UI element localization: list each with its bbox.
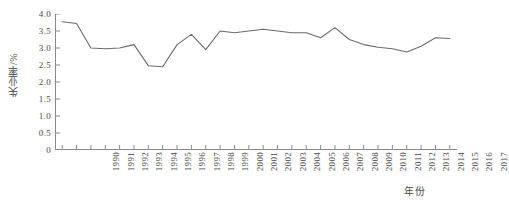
x-axis-tick-label: 2002 [284, 152, 293, 171]
x-axis-tick-label: 2016 [485, 152, 494, 171]
y-axis-tick-label: 4.0 [39, 10, 51, 19]
x-axis-tick-label: 1999 [241, 152, 250, 171]
plot-svg [55, 14, 457, 150]
x-axis-tick-label: 2001 [270, 152, 279, 171]
y-axis-tick-label: 0 [46, 146, 51, 155]
y-axis-tick-label: 3.0 [39, 44, 51, 53]
x-axis-tick-label: 2012 [428, 152, 437, 171]
axis-group [56, 14, 458, 150]
x-axis-tick-label: 1994 [170, 152, 179, 171]
x-axis-tick-label: 1996 [198, 152, 207, 171]
x-axis-tick-label: 1990 [112, 152, 121, 171]
y-axis-tick-label: 3.5 [39, 27, 51, 36]
x-axis-tick-label: 2017 [500, 152, 509, 171]
x-axis-tick-label: 2009 [385, 152, 394, 171]
y-axis-tick-label: 2.0 [39, 78, 51, 87]
x-axis-tick-label: 1991 [127, 152, 136, 171]
x-axis-tick-label: 2015 [471, 152, 480, 171]
x-axis-tick-label: 1993 [155, 152, 164, 171]
x-axis-tick-label: 1997 [213, 152, 222, 171]
x-axis-tick-label: 1998 [227, 152, 236, 171]
y-axis-tick-label: 2.5 [39, 61, 51, 70]
x-axis-tick-label: 2004 [313, 152, 322, 171]
x-axis-tick-label: 2005 [328, 152, 337, 171]
y-axis-tick-label: 1.5 [39, 95, 51, 104]
x-axis-tick-label: 2013 [442, 152, 451, 171]
x-axis-tick-label: 2010 [399, 152, 408, 171]
unemployment-rate-line [62, 22, 450, 67]
x-axis-tick-label: 2003 [299, 152, 308, 171]
y-axis-tick-label: 0.5 [39, 129, 51, 138]
x-axis-tick-label: 2006 [342, 152, 351, 171]
y-axis-ticks [56, 14, 61, 150]
x-axis-tick-label: 1992 [141, 152, 150, 171]
x-axis-tick-label: 1995 [184, 152, 193, 171]
x-axis-tick-label: 2014 [457, 152, 466, 171]
y-axis-tick-label: 1.0 [39, 112, 51, 121]
plot-area [55, 14, 457, 150]
y-axis-title-label: 失业率/% [6, 53, 21, 97]
x-axis-tick-label: 2011 [414, 152, 423, 171]
x-axis-tick-label: 2007 [356, 152, 365, 171]
y-axis-tick-labels: 4.03.53.02.52.01.51.00.50 [24, 0, 55, 156]
x-axis-title: 年份 [404, 186, 425, 197]
y-axis-title: 失业率/% [0, 0, 26, 150]
x-axis-ticks [62, 145, 450, 150]
x-axis-tick-label: 2000 [256, 152, 265, 171]
x-axis-tick-label: 2008 [371, 152, 380, 171]
